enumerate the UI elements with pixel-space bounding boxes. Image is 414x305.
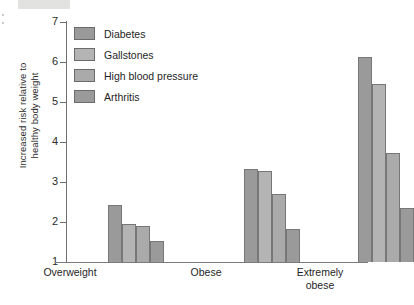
bar-high-blood-pressure[interactable]	[272, 194, 286, 262]
y-axis-tick-label: 2	[36, 216, 58, 227]
bar-group-overweight	[108, 22, 164, 262]
y-axis-tick-label: 4	[36, 136, 58, 147]
bar-high-blood-pressure[interactable]	[136, 226, 150, 262]
y-axis-tick-label: 7	[36, 16, 58, 27]
y-axis-tick-label: 3	[36, 176, 58, 187]
y-axis-tick-label: 5	[36, 96, 58, 107]
x-axis-category-label: Obese	[150, 266, 262, 279]
bar-high-blood-pressure[interactable]	[386, 153, 400, 262]
bar-arthritis[interactable]	[150, 241, 164, 262]
bar-arthritis[interactable]	[286, 229, 300, 262]
x-axis-category-label-line-1: Obese	[150, 266, 262, 279]
bar-diabetes[interactable]	[358, 57, 372, 262]
x-axis-line	[55, 262, 368, 263]
x-axis-category-label: Extremelyobese	[264, 266, 376, 291]
bar-diabetes[interactable]	[108, 205, 122, 262]
bar-gallstones[interactable]	[122, 224, 136, 262]
bar-gallstones[interactable]	[372, 84, 386, 262]
bar-arthritis[interactable]	[400, 208, 414, 262]
x-axis-category-label: Overweight	[14, 266, 126, 279]
bar-group-extremely-obese	[358, 22, 414, 262]
x-axis-category-label-line-1: Extremely	[264, 266, 376, 279]
y-axis-tick-label: 6	[36, 56, 58, 67]
bar-diabetes[interactable]	[244, 169, 258, 262]
x-axis-category-label-line-2: obese	[264, 279, 376, 292]
x-axis-category-label-line-1: Overweight	[14, 266, 126, 279]
bar-gallstones[interactable]	[258, 171, 272, 262]
y-axis-ticks: 1234567	[0, 0, 58, 305]
plot-area	[66, 22, 358, 262]
bar-group-obese	[244, 22, 300, 262]
